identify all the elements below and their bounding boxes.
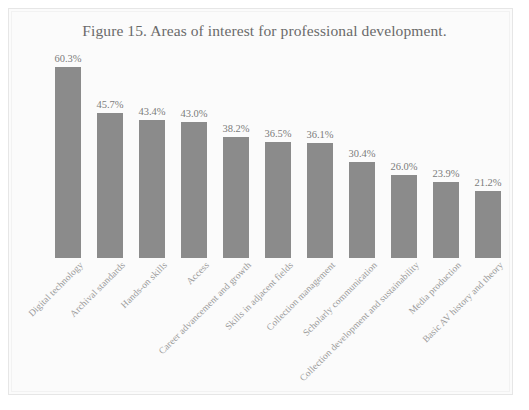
- x-tick-label: Skills in adjacent fields: [147, 260, 295, 408]
- x-tick-label: Scholarly communication: [231, 260, 379, 408]
- bar-value-label: 36.1%: [306, 129, 333, 140]
- bar-slot: 43.0%: [173, 58, 215, 258]
- bar-value-label: 43.4%: [138, 106, 165, 117]
- x-tick-label: Basic AV history and theory: [357, 260, 505, 408]
- bar-value-label: 45.7%: [96, 99, 123, 110]
- x-tick-label: Access: [63, 260, 211, 408]
- bar[interactable]: [97, 113, 123, 258]
- bar[interactable]: [139, 120, 165, 258]
- bar[interactable]: [265, 142, 291, 258]
- bar-slot: 26.0%: [383, 58, 425, 258]
- bar[interactable]: [223, 137, 249, 258]
- bar-value-label: 30.4%: [348, 148, 375, 159]
- bar-value-label: 60.3%: [54, 53, 81, 64]
- bar-slot: 21.2%: [467, 58, 509, 258]
- chart-title: Figure 15. Areas of interest for profess…: [0, 22, 529, 40]
- bar[interactable]: [181, 122, 207, 259]
- bar-value-label: 26.0%: [390, 161, 417, 172]
- bar[interactable]: [307, 143, 333, 258]
- bar-value-label: 36.5%: [264, 128, 291, 139]
- bar-slot: 36.1%: [299, 58, 341, 258]
- bar-slot: 30.4%: [341, 58, 383, 258]
- x-tick-label: Career advancement and growth: [105, 260, 253, 408]
- bar[interactable]: [391, 175, 417, 258]
- bar[interactable]: [475, 191, 501, 258]
- bar-slot: 43.4%: [131, 58, 173, 258]
- plot-area: 60.3%45.7%43.4%43.0%38.2%36.5%36.1%30.4%…: [47, 58, 509, 258]
- bar-slot: 60.3%: [47, 58, 89, 258]
- figure-page: Figure 15. Areas of interest for profess…: [0, 0, 529, 410]
- bar-value-label: 43.0%: [180, 108, 207, 119]
- x-tick-label: Collection development and sustainabilit…: [273, 260, 421, 408]
- bar[interactable]: [349, 162, 375, 259]
- bar-value-label: 21.2%: [474, 177, 501, 188]
- bar-slot: 45.7%: [89, 58, 131, 258]
- bar-slot: 23.9%: [425, 58, 467, 258]
- x-tick-label: Collection management: [189, 260, 337, 408]
- bar-slot: 36.5%: [257, 58, 299, 258]
- bar[interactable]: [55, 67, 81, 258]
- bar-value-label: 38.2%: [222, 123, 249, 134]
- bar-slot: 38.2%: [215, 58, 257, 258]
- bar-value-label: 23.9%: [432, 168, 459, 179]
- bar[interactable]: [433, 182, 459, 258]
- x-tick-label: Media production: [315, 260, 463, 408]
- x-axis-tick-labels: Digital technologyArchival standardsHand…: [47, 260, 509, 405]
